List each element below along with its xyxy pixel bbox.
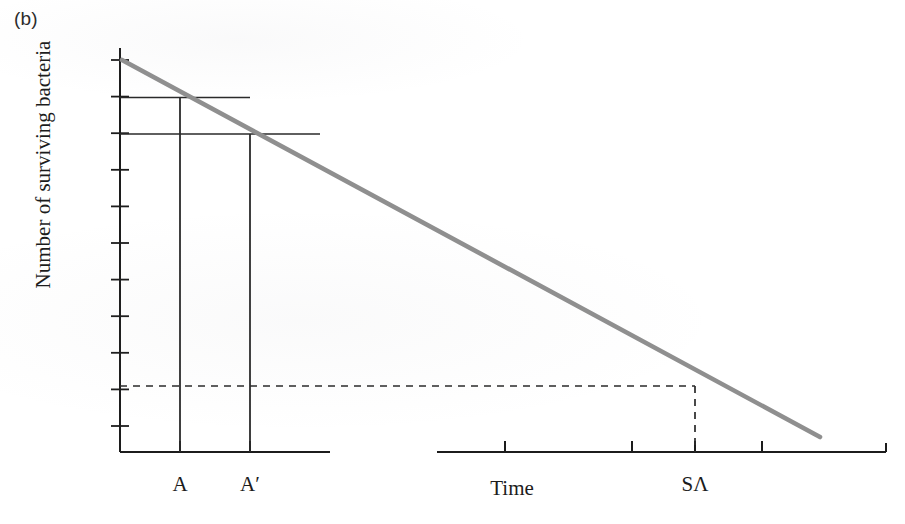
x-tick-label-A-prime: A′	[210, 472, 290, 497]
x-axis-ticks	[180, 441, 762, 452]
survivor-curve-line	[122, 60, 820, 437]
sterility-lines	[120, 386, 695, 452]
figure-panel-b: (b) Number of surviving bacteria 1031021…	[0, 0, 905, 524]
axis-lines	[120, 48, 886, 452]
x-tick-label-A: A	[140, 472, 220, 497]
x-tick-label-SA: SΛ	[655, 472, 735, 497]
plot-area	[0, 0, 905, 524]
